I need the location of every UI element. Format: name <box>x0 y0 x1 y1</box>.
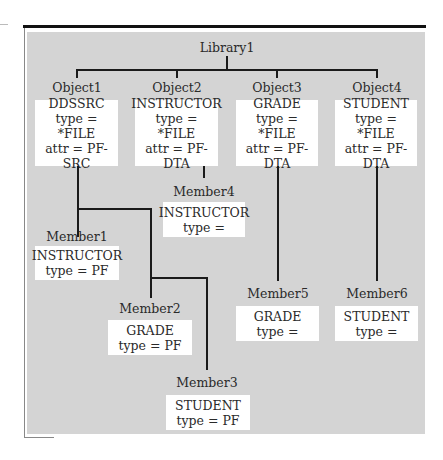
member4-name: INSTRUCTOR <box>159 205 249 220</box>
member3-type: type = PF <box>177 413 240 428</box>
object3-box: GRADE type = *FILE attr = PF-DTA <box>236 100 318 166</box>
member6-box: STUDENT type = <box>335 306 418 341</box>
object2-label: Object2 <box>152 80 202 95</box>
member2-name: GRADE <box>126 323 174 338</box>
connector <box>203 166 205 178</box>
member2-type: type = PF <box>119 338 182 353</box>
connector <box>77 208 152 210</box>
connector <box>376 69 378 78</box>
connector <box>226 56 228 70</box>
connector <box>76 69 378 71</box>
object3-type: type = *FILE <box>236 111 318 141</box>
object3-label: Object3 <box>252 80 302 95</box>
margin-tick <box>0 24 8 25</box>
member1-label: Member1 <box>46 229 107 244</box>
object2-name: INSTRUCTOR <box>131 96 221 111</box>
object4-label: Object4 <box>352 80 402 95</box>
connector <box>176 69 178 78</box>
top-rule <box>23 25 426 28</box>
connector <box>150 277 208 279</box>
member4-box: INSTRUCTOR type = <box>163 202 245 237</box>
member5-box: GRADE type = <box>236 306 319 341</box>
member2-box: GRADE type = PF <box>108 320 192 355</box>
member3-label: Member3 <box>176 375 237 390</box>
object4-box: STUDENT type = *FILE attr = PF-DTA <box>335 100 417 166</box>
object1-type: type = *FILE <box>35 111 118 141</box>
member6-name: STUDENT <box>344 309 410 324</box>
connector <box>76 69 78 78</box>
object1-label: Object1 <box>52 80 102 95</box>
object3-name: GRADE <box>253 96 301 111</box>
connector <box>276 69 278 78</box>
library-label: Library1 <box>200 40 255 55</box>
bottom-rule <box>24 437 54 438</box>
member4-label: Member4 <box>173 184 234 199</box>
object4-type: type = *FILE <box>335 111 417 141</box>
member1-box: INSTRUCTOR type = PF <box>35 246 119 280</box>
object2-box: INSTRUCTOR type = *FILE attr = PF-DTA <box>135 100 218 166</box>
member2-label: Member2 <box>119 301 180 316</box>
connector <box>277 166 279 281</box>
member3-name: STUDENT <box>175 398 241 413</box>
object2-attr: attr = PF-DTA <box>135 141 218 171</box>
member5-name: GRADE <box>254 309 302 324</box>
member3-box: STUDENT type = PF <box>166 395 250 430</box>
connector <box>206 277 208 370</box>
member5-label: Member5 <box>247 286 308 301</box>
left-rule <box>24 28 25 438</box>
connector <box>77 166 79 237</box>
member1-type: type = PF <box>46 263 109 278</box>
member5-type: type = <box>257 324 299 339</box>
object1-box: DDSSRC type = *FILE attr = PF-SRC <box>35 100 118 166</box>
connector <box>376 166 378 281</box>
object1-name: DDSSRC <box>49 96 105 111</box>
member6-label: Member6 <box>346 286 407 301</box>
member4-type: type = <box>183 220 225 235</box>
object4-name: STUDENT <box>343 96 409 111</box>
object2-type: type = *FILE <box>135 111 218 141</box>
connector <box>150 208 152 298</box>
member1-name: INSTRUCTOR <box>32 248 122 263</box>
member6-type: type = <box>356 324 398 339</box>
